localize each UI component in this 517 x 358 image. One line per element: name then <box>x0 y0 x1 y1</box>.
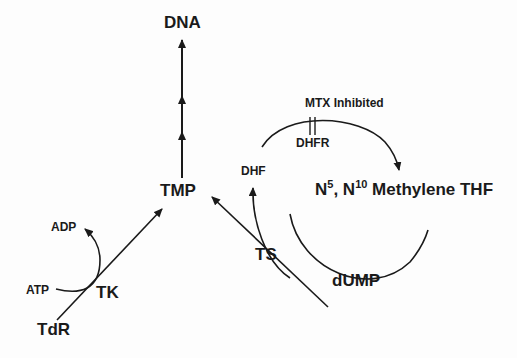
dna-label: DNA <box>164 13 201 32</box>
dhfr-label: DHFR <box>296 136 330 150</box>
folate-cycle-lower-arc <box>290 214 428 279</box>
tk-label: TK <box>96 283 119 302</box>
dhf-to-methylene-thf-arc <box>262 121 399 171</box>
ts-to-dhf-arc <box>253 188 290 278</box>
mtx-inhibited-label: MTX Inhibited <box>305 96 384 110</box>
atp-label: ATP <box>26 283 49 297</box>
tdr-label: TdR <box>37 320 70 339</box>
dump-label: dUMP <box>332 271 380 290</box>
diagram-svg: DNA TMP TdR TK ATP ADP DHF DHFR MTX Inhi… <box>0 0 517 358</box>
tmp-label: TMP <box>160 181 196 200</box>
dhf-label: DHF <box>241 164 266 178</box>
adp-label: ADP <box>51 220 76 234</box>
mtx-inhibition-mark <box>310 117 315 135</box>
pathway-diagram: DNA TMP TdR TK ATP ADP DHF DHFR MTX Inhi… <box>0 0 517 358</box>
methylene-thf-label: N5, N10 Methylene THF <box>315 178 493 199</box>
ts-label: TS <box>255 245 277 264</box>
atp-adp-arrow <box>56 229 100 291</box>
